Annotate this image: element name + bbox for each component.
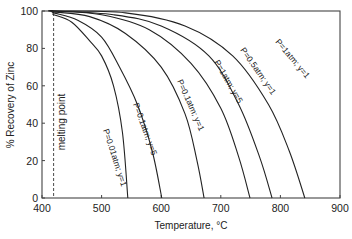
curve-line-5 [49,11,272,198]
y-tick-label: 40 [26,117,38,129]
y-tick-label: 100 [20,5,38,17]
curve-line-3 [51,11,204,198]
zinc-recovery-chart: 400500600700800900020406080100 melting p… [0,0,352,239]
y-tick-label: 80 [26,42,38,54]
x-tick-label: 500 [93,202,111,214]
curve-line-2 [52,12,162,198]
curve-label-6: P=1atm; y=1 [273,37,312,81]
y-tick-label: 0 [32,192,38,204]
x-tick-label: 900 [331,202,349,214]
y-tick-label: 60 [26,80,38,92]
curve-labels: P=0.01atm; y=1P=0.1atm; y=5P=0.1atm; y=1… [101,37,312,188]
curve-line-6 [49,11,305,198]
curves [49,11,305,198]
curve-label-2: P=0.1atm; y=5 [131,101,159,157]
curve-label-4: P=1atm; y=5 [212,58,245,105]
curve-line-4 [50,11,250,198]
x-axis-title: Temperature, °C [155,220,228,231]
x-tick-label: 600 [152,202,170,214]
curve-label-3: P=0.1atm; y=1 [175,78,207,133]
x-tick-label: 700 [212,202,230,214]
x-tick-label: 800 [272,202,290,214]
y-axis-title: % Recovery of Zinc [5,62,16,149]
melting-point-label: melting point [56,93,67,150]
y-tick-label: 20 [26,155,38,167]
